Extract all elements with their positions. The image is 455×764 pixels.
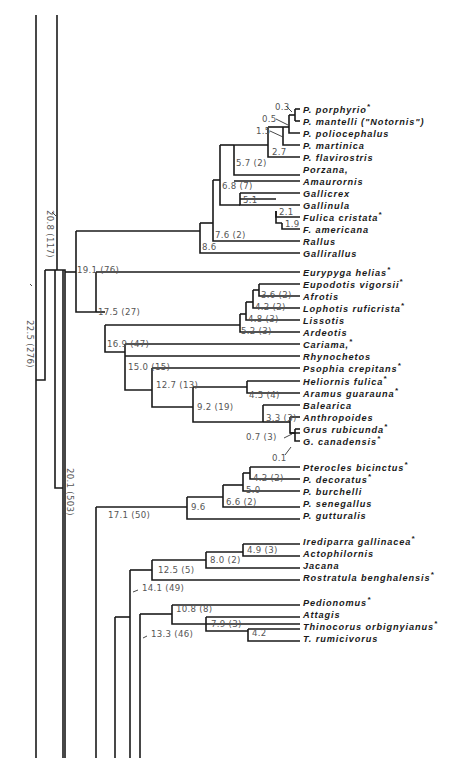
node-value-label: 1.5: [256, 126, 271, 136]
taxon-label-flavirostris: P. flavirostris: [303, 153, 374, 163]
asterisk-marker: *: [434, 619, 438, 628]
taxon-label-pedionomus: Pedionomus*: [303, 595, 371, 608]
asterisk-marker: *: [368, 472, 372, 481]
asterisk-marker: *: [401, 301, 405, 310]
taxon-label-lophotis: Lophotis ruficrista*: [303, 301, 405, 314]
taxon-label-porzana: Porzana,: [303, 165, 349, 175]
asterisk-marker: *: [383, 374, 387, 383]
taxon-label-actophilornis: Actophilornis: [302, 549, 374, 559]
node-value-label: 12.5 (5): [158, 565, 194, 575]
node-value-labels: 0.30.51.52.75.7 (2)6.8 (7)5.12.11.97.6 (…: [77, 102, 300, 639]
node-value-label: 2.7: [272, 147, 287, 157]
node-value-label: 9.2 (19): [197, 402, 233, 412]
taxon-label-fulica: Fulica cristata*: [303, 210, 382, 223]
taxon-label-senegallus: P. senegallus: [303, 499, 372, 509]
node-value-label: 4.2 (2): [255, 302, 286, 312]
asterisk-marker: *: [377, 434, 381, 443]
node-value-label: 4.5 (4): [249, 390, 280, 400]
node-value-label: 9.6: [191, 502, 206, 512]
taxon-label-gallirallus: Gallirallus: [303, 249, 357, 259]
taxon-label-porphyrio: P. porphyrio*: [303, 102, 371, 115]
taxon-label-gallicrex: Gallicrex: [303, 189, 350, 199]
taxon-label-psophia: Psophia crepitans*: [303, 361, 401, 374]
taxon-label-anthropoides: Anthropoides: [302, 413, 374, 423]
asterisk-marker: *: [430, 570, 434, 579]
taxon-label-lissotis: Lissotis: [303, 316, 345, 326]
node-value-label: 17.5 (27): [98, 307, 140, 317]
taxon-label-canadensis: G. canadensis*: [303, 434, 381, 447]
taxon-label-rhynochetos: Rhynochetos: [303, 352, 371, 362]
taxon-label-martinica: P. martinica: [303, 141, 365, 151]
node-value-label: 17.1 (50): [108, 510, 150, 520]
taxon-label-burchelli: P. burchelli: [303, 487, 362, 497]
taxon-label-poliocephalus: P. poliocephalus: [303, 129, 389, 139]
node-value-label: 5.1: [243, 195, 258, 205]
taxon-label-heliornis: Heliornis fulica*: [303, 374, 387, 387]
asterisk-marker: *: [367, 595, 371, 604]
taxon-label-eupodotis: Eupodotis vigorsii*: [303, 277, 403, 290]
node-value-label: 6.8 (7): [222, 181, 253, 191]
taxon-label-rostratula: Rostratula benghalensis*: [303, 570, 434, 583]
taxon-label-eurypyga: Eurypyga helias*: [303, 265, 391, 278]
rotated-node-label: 22.5 (276): [25, 320, 35, 368]
node-value-label: 0.3: [275, 102, 290, 112]
taxon-label-pterocles: Pterocles bicinctus*: [303, 460, 408, 473]
taxon-label-mantelli: P. mantelli ("Notornis"): [303, 117, 425, 127]
asterisk-marker: *: [395, 386, 399, 395]
node-value-label: 4.2 (2): [253, 473, 284, 483]
asterisk-marker: *: [411, 534, 415, 543]
node-value-label: 12.7 (13): [156, 380, 198, 390]
taxon-label-jacana: Jacana: [303, 561, 340, 571]
asterisk-marker: *: [378, 210, 382, 219]
taxon-label-balearica: Balearica: [303, 401, 352, 411]
node-value-label: 15.0 (15): [128, 362, 170, 372]
node-value-label: 0.7 (3): [246, 432, 277, 442]
node-value-label: 19.1 (76): [77, 265, 119, 275]
node-value-label: 4.9 (3): [247, 545, 278, 555]
asterisk-marker: *: [384, 422, 388, 431]
taxon-label-gutturalis: P. gutturalis: [303, 511, 367, 521]
node-value-label: 10.8 (8): [176, 604, 212, 614]
taxon-label-attagis: Attagis: [302, 610, 340, 620]
rotated-node-label: 20.8 (117): [45, 210, 55, 258]
taxon-label-rumicivorus: T. rumicivorus: [303, 634, 378, 644]
taxon-label-amaurornis: Amaurornis: [302, 177, 364, 187]
asterisk-marker: *: [387, 265, 391, 274]
node-value-label: 4.8 (3): [248, 314, 279, 324]
node-value-label: 7.9 (3): [211, 619, 242, 629]
asterisk-marker: *: [397, 361, 401, 370]
node-value-label: 5.0: [246, 485, 261, 495]
node-value-label: 14.1 (49): [142, 583, 184, 593]
node-value-label: 5.7 (2): [236, 158, 267, 168]
rotated-node-labels: 20.8 (117)22.5 (276)20.1 (503): [25, 210, 75, 516]
taxon-label-thinocorus: Thinocorus orbignyianus*: [303, 619, 438, 632]
node-value-label: 2.1: [279, 207, 294, 217]
node-value-label: 3.6 (2): [261, 290, 292, 300]
annotation-arrows: [30, 106, 292, 638]
taxon-label-gallinula: Gallinula: [303, 201, 350, 211]
node-value-label: 4.2: [252, 628, 267, 638]
node-value-label: 0.5: [262, 114, 277, 124]
asterisk-marker: *: [399, 277, 403, 286]
asterisk-marker: *: [404, 460, 408, 469]
node-value-label: 6.6 (2): [226, 497, 257, 507]
taxon-label-rallus: Rallus: [303, 237, 336, 247]
node-value-label: 1.9: [285, 219, 300, 229]
node-value-label: 7.6 (2): [215, 230, 246, 240]
taxon-label-aramus: Aramus guarauna*: [302, 386, 399, 399]
node-value-label: 8.6: [202, 242, 217, 252]
asterisk-marker: *: [349, 337, 353, 346]
taxon-label-cariama: Cariama,*: [303, 337, 353, 350]
node-value-label: 5.2 (3): [241, 326, 272, 336]
node-value-label: 0.1: [272, 453, 287, 463]
taxon-label-decoratus: P. decoratus*: [303, 472, 372, 485]
taxon-label-grus: Grus rubicunda*: [303, 422, 388, 435]
node-value-label: 3.3 (3): [266, 413, 297, 423]
node-value-label: 13.3 (46): [151, 629, 193, 639]
taxon-label-ardeotis: Ardeotis: [302, 328, 347, 338]
rotated-node-label: 20.1 (503): [65, 468, 75, 516]
taxon-label-irediparra: Irediparra gallinacea*: [303, 534, 415, 547]
node-value-label: 16.9 (47): [107, 339, 149, 349]
leaf-labels: P. porphyrio*P. mantelli ("Notornis")P. …: [302, 102, 438, 644]
phylogenetic-tree: P. porphyrio*P. mantelli ("Notornis")P. …: [0, 0, 455, 764]
